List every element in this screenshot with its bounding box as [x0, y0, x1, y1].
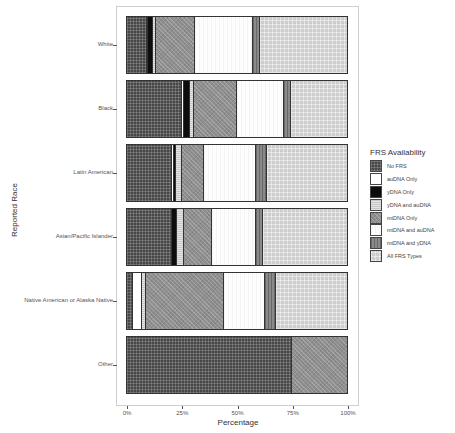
legend-items: No FRSauDNA OnlyyDNA OnlyyDNA and auDNAm…: [370, 160, 434, 262]
bar-segment: [212, 209, 256, 265]
bar-segment: [182, 145, 204, 201]
bar-segment: [156, 17, 196, 73]
legend-label: yDNA Only: [387, 189, 414, 195]
bar-segment: [195, 17, 252, 73]
legend-item: yDNA and auDNA: [370, 198, 434, 211]
legend-swatch: [370, 186, 382, 198]
bar-segment: [127, 337, 292, 393]
y-tick-label: Other: [98, 361, 113, 367]
y-tick-label: Black: [98, 105, 113, 111]
bar-segment: [127, 209, 172, 265]
y-tick: [113, 173, 117, 174]
bar-segment: [284, 81, 291, 137]
bar-black: [126, 80, 348, 138]
bar-segment: [204, 145, 256, 201]
legend-label: mtDNA and auDNA: [387, 227, 434, 233]
legend-item: mtDNA Only: [370, 211, 434, 224]
legend-label: auDNA Only: [387, 176, 417, 182]
bar-other: [126, 336, 348, 394]
y-tick-label: Asian/Pacific Islander: [56, 233, 113, 239]
bar-segment: [267, 145, 347, 201]
bar-segment: [127, 145, 172, 201]
legend-title: FRS Availability: [370, 148, 434, 157]
legend-item: yDNA Only: [370, 186, 434, 199]
x-tick: [293, 406, 294, 409]
bar-segment: [260, 17, 346, 73]
bar-asian-pacific-islander: [126, 208, 348, 266]
y-tick: [113, 365, 117, 366]
y-tick-label: Latin American: [73, 169, 113, 175]
bar-segment: [177, 209, 184, 265]
legend-item: All FRS Types: [370, 250, 434, 263]
bar-segment: [253, 17, 261, 73]
bar-segment: [127, 81, 182, 137]
legend-label: mtDNA Only: [387, 215, 417, 221]
legend-swatch: [370, 224, 382, 236]
x-tick-label: 75%: [287, 410, 299, 416]
x-axis-title: Percentage: [218, 418, 259, 427]
bar-segment: [176, 145, 183, 201]
legend-swatch: [370, 237, 382, 249]
bar-segment: [133, 273, 143, 329]
bar-segment: [291, 81, 347, 137]
bar-segment: [146, 273, 224, 329]
bar-segment: [265, 273, 276, 329]
bar-white: [126, 16, 348, 74]
y-tick: [113, 301, 117, 302]
bar-segment: [127, 17, 147, 73]
bar-latin-american: [126, 144, 348, 202]
bar-segment: [276, 273, 347, 329]
bar-segment: [263, 209, 347, 265]
legend-label: mtDNA and yDNA: [387, 240, 431, 246]
bar-segment: [184, 209, 212, 265]
x-tick-label: 25%: [176, 410, 188, 416]
legend-item: mtDNA and auDNA: [370, 224, 434, 237]
x-tick: [127, 406, 128, 409]
legend-item: No FRS: [370, 160, 434, 173]
legend: FRS Availability No FRSauDNA OnlyyDNA On…: [370, 148, 434, 262]
bar-segment: [256, 145, 267, 201]
y-tick-label: White: [98, 41, 113, 47]
y-axis-title: Reported Race: [10, 183, 19, 237]
x-tick-label: 100%: [340, 410, 355, 416]
bar-segment: [224, 273, 265, 329]
legend-label: yDNA and auDNA: [387, 202, 431, 208]
legend-swatch: [370, 173, 382, 185]
x-tick: [238, 406, 239, 409]
x-tick-label: 50%: [231, 410, 243, 416]
y-tick: [113, 237, 117, 238]
bar-segment: [194, 81, 237, 137]
y-tick: [113, 45, 117, 46]
legend-label: All FRS Types: [387, 253, 422, 259]
legend-swatch: [370, 160, 382, 172]
x-tick: [348, 406, 349, 409]
legend-item: mtDNA and yDNA: [370, 237, 434, 250]
legend-item: auDNA Only: [370, 173, 434, 186]
x-tick: [182, 406, 183, 409]
y-tick-label: Native American or Alaska Native: [24, 297, 113, 303]
legend-swatch: [370, 212, 382, 224]
legend-label: No FRS: [387, 163, 407, 169]
x-tick-label: 0%: [123, 410, 132, 416]
legend-swatch: [370, 199, 382, 211]
bar-segment: [292, 337, 347, 393]
y-tick: [113, 109, 117, 110]
bar-segment: [256, 209, 264, 265]
bar-native-american-or-alaska-native: [126, 272, 348, 330]
bar-segment: [237, 81, 284, 137]
legend-swatch: [370, 250, 382, 262]
